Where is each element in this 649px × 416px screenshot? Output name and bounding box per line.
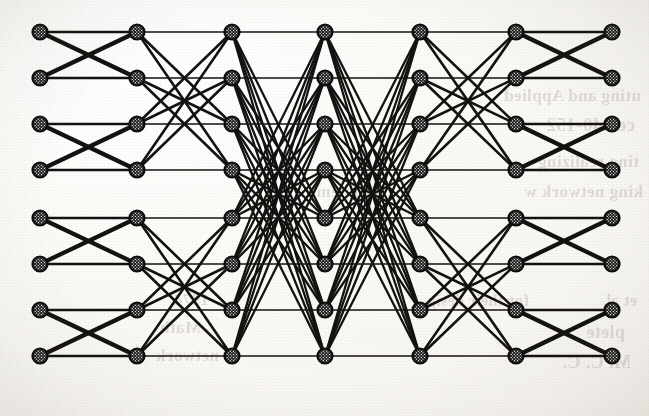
figure-root: uting and Appliedce 140-152ting realizin… bbox=[0, 0, 649, 416]
network-diagram bbox=[0, 0, 649, 416]
node-layer bbox=[14, 23, 637, 364]
